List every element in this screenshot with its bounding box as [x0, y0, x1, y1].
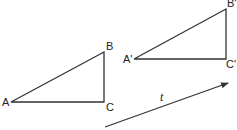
vertex-label-c-prime: C': [226, 58, 236, 70]
vertex-label-b-prime: B': [227, 0, 236, 9]
translation-vector-arrow: [105, 83, 228, 127]
vertex-label-c: C: [106, 101, 114, 113]
vertex-label-a: A: [2, 96, 10, 108]
vector-label-t: t: [160, 90, 164, 104]
vertex-label-b: B: [106, 40, 113, 52]
triangle-a-prime-b-prime-c-prime: [134, 9, 226, 59]
triangle-abc: [11, 52, 104, 102]
vertex-label-a-prime: A': [123, 53, 132, 65]
translation-diagram: A B C A' B' C' t: [0, 0, 237, 130]
